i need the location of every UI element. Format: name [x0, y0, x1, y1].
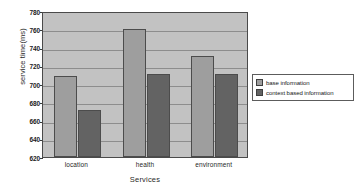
legend-item-label: context based information: [266, 90, 333, 96]
y-axis-tick-label: 780: [14, 9, 40, 16]
legend-swatch-icon: [256, 89, 263, 96]
y-axis-tick-label: 700: [14, 82, 40, 89]
x-axis-title: Services: [42, 175, 248, 184]
legend-item-context-based-information: context based information: [255, 88, 350, 97]
legend-item-base-information: base information: [255, 78, 350, 87]
legend-swatch-icon: [256, 79, 263, 86]
bar-chart-figure: service time(ms) 62064066068070072074076…: [0, 0, 358, 193]
y-axis-tick-label: 720: [14, 63, 40, 70]
y-axis-tick-label: 740: [14, 45, 40, 52]
bar: [191, 56, 214, 157]
y-axis-tick-label: 640: [14, 136, 40, 143]
legend: base information context based informati…: [252, 74, 354, 101]
y-axis-tick-labels: 620640660680700720740760780: [10, 12, 40, 158]
plot-area: [42, 12, 248, 158]
y-axis-tick-label: 680: [14, 100, 40, 107]
bar: [215, 74, 238, 157]
bar: [78, 110, 101, 157]
bar: [54, 76, 77, 157]
y-axis-tick-label: 660: [14, 118, 40, 125]
bar: [147, 74, 170, 157]
legend-item-label: base information: [266, 80, 310, 86]
y-axis-tick-mark: [40, 158, 43, 159]
y-axis-tick-label: 760: [14, 27, 40, 34]
bar: [123, 29, 146, 157]
x-axis-tick-label: environment: [174, 161, 254, 168]
